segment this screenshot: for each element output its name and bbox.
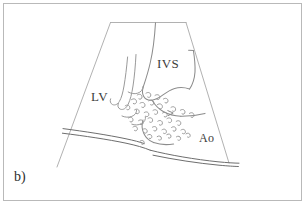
label-aorta: Ao — [199, 131, 214, 146]
eddy — [162, 129, 166, 134]
eddy — [167, 118, 172, 123]
figure-panel: LV IVS Ao b) — [0, 0, 306, 205]
eddy — [176, 136, 180, 140]
eddy — [157, 136, 161, 140]
eddy — [180, 109, 185, 114]
aorta-wall-lower — [153, 155, 238, 166]
streamline-4 — [122, 110, 137, 117]
anatomical-line-diagram — [0, 0, 306, 205]
septum-left-border — [142, 23, 155, 100]
eddy — [132, 99, 137, 104]
eddy — [140, 102, 145, 107]
eddy — [181, 129, 185, 134]
panel-letter-label: b) — [14, 169, 26, 185]
eddy — [167, 134, 171, 138]
eddy — [133, 126, 137, 131]
eddy — [158, 120, 163, 125]
eddy — [144, 112, 149, 117]
eddy — [152, 127, 156, 132]
ventricular-wall-double-line — [62, 129, 150, 151]
aortic-valve-lower-leaflet — [142, 120, 154, 143]
aortic-sinus-lower — [154, 143, 174, 145]
turbulent-eddies — [125, 92, 194, 144]
septum-bulge-lower — [152, 88, 190, 101]
eddy — [176, 121, 181, 126]
eddy — [186, 133, 190, 137]
septum-right-border — [190, 51, 195, 90]
eddy — [171, 107, 176, 112]
wall-line-upper — [63, 129, 144, 144]
eddy — [137, 94, 142, 99]
label-interventricular-septum: IVS — [157, 56, 179, 72]
streamline-1 — [110, 57, 127, 105]
streamline-3 — [128, 87, 143, 94]
flow-streamlines — [110, 55, 145, 125]
eddy — [163, 98, 168, 103]
eddy — [153, 110, 158, 115]
eddy — [128, 117, 133, 122]
eddy — [148, 118, 153, 123]
eddy — [148, 134, 152, 138]
eddy — [172, 127, 176, 132]
label-left-ventricle: LV — [91, 89, 108, 105]
eddy — [146, 92, 151, 97]
